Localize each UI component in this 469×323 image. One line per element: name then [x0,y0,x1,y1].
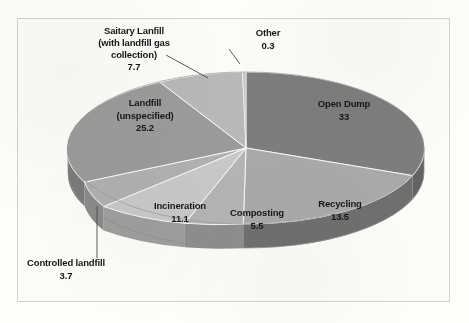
pie-label-sanitary-landfill: Saitary Lanfill (with landfill gas colle… [61,25,207,73]
pie-chart-figure: Open Dump 33 Recycling 13.5 Composting 5… [0,0,469,323]
pie-label-landfill-unspecified-line2: (unspecified) [116,110,173,121]
pie-label-landfill-unspecified: Landfill (unspecified) 25.2 [90,97,200,135]
pie-label-incineration: Incineration 11.1 [131,200,229,225]
pie-label-sanitary-landfill-value: 7.7 [61,61,207,73]
pie-label-incineration-text: Incineration [154,200,206,211]
pie-label-other-value: 0.3 [226,40,310,53]
pie-label-incineration-value: 11.1 [131,213,229,226]
pie-label-landfill-unspecified-line1: Landfill [129,97,162,108]
pie-label-other-text: Other [256,27,281,38]
pie-label-recycling: Recycling 13.5 [294,198,386,223]
pie-label-recycling-value: 13.5 [294,211,386,224]
pie-label-controlled-landfill-text: Controlled landfill [27,257,105,268]
pie-label-controlled-landfill: Controlled landfill 3.7 [6,257,126,282]
pie-label-sanitary-landfill-line3: collection) [111,49,157,60]
pie-label-controlled-landfill-value: 3.7 [6,270,126,283]
pie-label-sanitary-landfill-line1: Saitary Lanfill [104,25,164,36]
pie-label-other: Other 0.3 [226,27,310,52]
pie-label-open-dump-value: 33 [296,111,392,124]
pie-label-sanitary-landfill-line2: (with landfill gas [98,37,170,48]
pie-label-open-dump: Open Dump 33 [296,98,392,123]
pie-label-recycling-text: Recycling [318,198,362,209]
pie-label-landfill-unspecified-value: 25.2 [90,122,200,135]
pie-label-open-dump-text: Open Dump [318,98,370,109]
pie-label-composting-text: Composting [230,207,284,218]
